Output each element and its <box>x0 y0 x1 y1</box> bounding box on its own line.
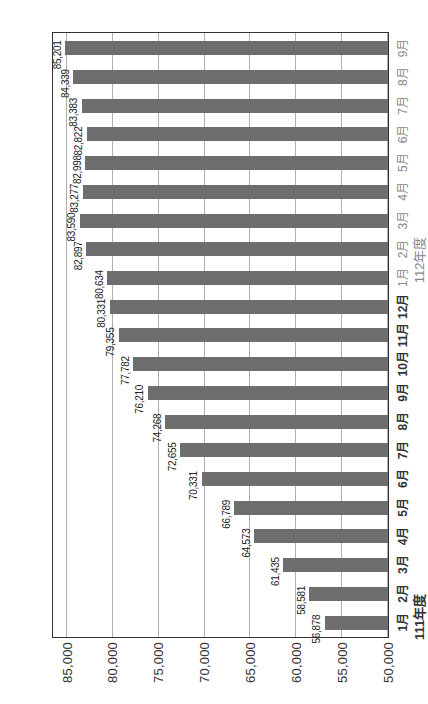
x-tick-month: 8月 <box>393 67 410 86</box>
x-tick-month: 9月 <box>393 383 410 402</box>
bar <box>133 357 388 371</box>
y-tick-label: 80,000 <box>105 642 120 702</box>
y-tick-label: 70,000 <box>197 642 212 702</box>
bar-value-label: 82,822 <box>73 127 84 156</box>
x-group-label-111: 111年度 <box>409 594 428 640</box>
x-tick-month: 3月 <box>393 211 410 230</box>
x-tick-month: 10月 <box>393 351 410 376</box>
bar-value-label: 66,789 <box>221 500 232 529</box>
bar <box>73 70 388 84</box>
bar-value-label: 83,383 <box>68 98 79 127</box>
y-tick-label: 85,000 <box>59 642 74 702</box>
x-group-label-112: 112年度 <box>409 237 428 284</box>
bar <box>234 501 388 515</box>
x-tick-month: 2月 <box>393 240 410 259</box>
bar <box>80 214 388 228</box>
bar <box>309 587 388 601</box>
bar-value-label: 61,435 <box>270 557 281 586</box>
bar-value-label: 58,581 <box>296 586 307 615</box>
bar-value-label: 80,331 <box>96 299 107 328</box>
bar-value-label: 82,998 <box>72 155 83 184</box>
bar-value-label: 64,573 <box>241 529 252 558</box>
x-tick-month: 6月 <box>393 469 410 488</box>
x-tick-month: 7月 <box>393 441 410 460</box>
bar-value-label: 72,655 <box>167 442 178 471</box>
bar <box>180 443 388 457</box>
bar-value-label: 82,897 <box>73 241 84 270</box>
y-tick-label: 50,000 <box>380 642 395 702</box>
x-tick-month: 4月 <box>393 182 410 201</box>
bar-value-label: 74,268 <box>152 414 163 443</box>
x-tick-month: 5月 <box>393 153 410 172</box>
bar <box>110 300 388 314</box>
bar-value-label: 56,878 <box>311 615 322 644</box>
bar-value-label: 83,277 <box>69 184 80 213</box>
bar-value-label: 77,782 <box>120 356 131 385</box>
x-tick-month: 8月 <box>393 412 410 431</box>
x-tick-month: 4月 <box>393 527 410 546</box>
bar-value-label: 80,634 <box>94 270 105 299</box>
bar <box>87 128 388 142</box>
bar <box>82 99 388 113</box>
bar <box>254 530 388 544</box>
bar <box>83 185 388 199</box>
x-tick-month: 9月 <box>393 39 410 58</box>
x-tick-month: 12月 <box>393 294 410 319</box>
x-tick-month: 2月 <box>393 584 410 603</box>
bar <box>283 558 388 572</box>
bar-value-label: 84,339 <box>60 69 71 98</box>
bar-value-label: 79,355 <box>105 328 116 357</box>
bar <box>325 616 388 630</box>
x-tick-month: 5月 <box>393 498 410 517</box>
gridline <box>66 33 67 637</box>
y-tick-label: 75,000 <box>151 642 166 702</box>
bar <box>148 386 388 400</box>
y-tick-label: 60,000 <box>288 642 303 702</box>
plot-area <box>52 32 389 638</box>
bar <box>107 271 388 285</box>
bar <box>86 242 388 256</box>
bar <box>165 415 388 429</box>
x-tick-month: 7月 <box>393 96 410 115</box>
x-tick-month: 11月 <box>393 323 410 348</box>
bar <box>119 329 388 343</box>
bar <box>85 156 388 170</box>
bar <box>65 41 388 55</box>
y-tick-label: 55,000 <box>334 642 349 702</box>
x-tick-month: 3月 <box>393 555 410 574</box>
y-tick-label: 65,000 <box>242 642 257 702</box>
x-tick-month: 6月 <box>393 125 410 144</box>
bar-value-label: 85,201 <box>52 40 63 69</box>
x-tick-month: 1月 <box>393 268 410 287</box>
x-tick-month: 1月 <box>393 613 410 632</box>
bar <box>202 472 388 486</box>
bar-value-label: 76,210 <box>134 385 145 414</box>
bar-value-label: 83,590 <box>66 213 77 242</box>
bar-value-label: 70,331 <box>188 471 199 500</box>
